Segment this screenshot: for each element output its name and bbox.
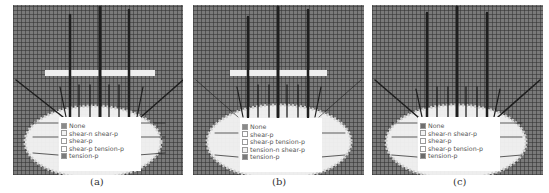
legend-item: shear-p [420,137,498,145]
legend-item: None [61,122,139,130]
legend-item: None [420,122,498,130]
legend-item: shear-p [61,137,139,145]
legend-item: tension-n shear-p [242,146,320,154]
caption-a: (a) [90,176,104,187]
legend-item: shear-p [242,131,320,139]
legend-swatch [61,130,67,136]
legend-swatch [242,139,248,145]
legend-item: tension-p [420,152,498,160]
legend-swatch [420,130,426,136]
legend-swatch [61,123,67,129]
legend-item: tension-p [61,152,139,160]
legend-a: None shear-n shear-p shear-p shear-p ten… [59,117,141,171]
legend-swatch [61,138,67,144]
legend-swatch [61,153,67,159]
legend-item: shear-p tension-p [420,145,498,153]
legend-swatch [420,138,426,144]
legend-swatch [420,146,426,152]
legend-swatch [242,131,248,137]
legend-item: shear-n shear-p [61,130,139,138]
legend-swatch [61,146,67,152]
legend-swatch [242,124,248,130]
legend-c: None shear-n shear-p shear-p shear-p ten… [418,117,500,171]
legend-swatch [420,153,426,159]
legend-item: shear-p tension-p [61,145,139,153]
caption-c: (c) [453,176,466,187]
panel-c: None shear-n shear-p shear-p shear-p ten… [372,5,543,175]
caption-b: (b) [272,176,286,187]
legend-item: shear-n shear-p [420,130,498,138]
legend-item: shear-p tension-p [242,138,320,146]
panel-b: None shear-p shear-p tension-p tension-n… [193,5,364,175]
legend-swatch [420,123,426,129]
panel-a: None shear-n shear-p shear-p shear-p ten… [13,5,183,175]
legend-swatch [242,154,248,160]
legend-swatch [242,147,248,153]
legend-item: None [242,123,320,131]
legend-item: tension-p [242,153,320,161]
legend-b: None shear-p shear-p tension-p tension-n… [240,118,322,172]
